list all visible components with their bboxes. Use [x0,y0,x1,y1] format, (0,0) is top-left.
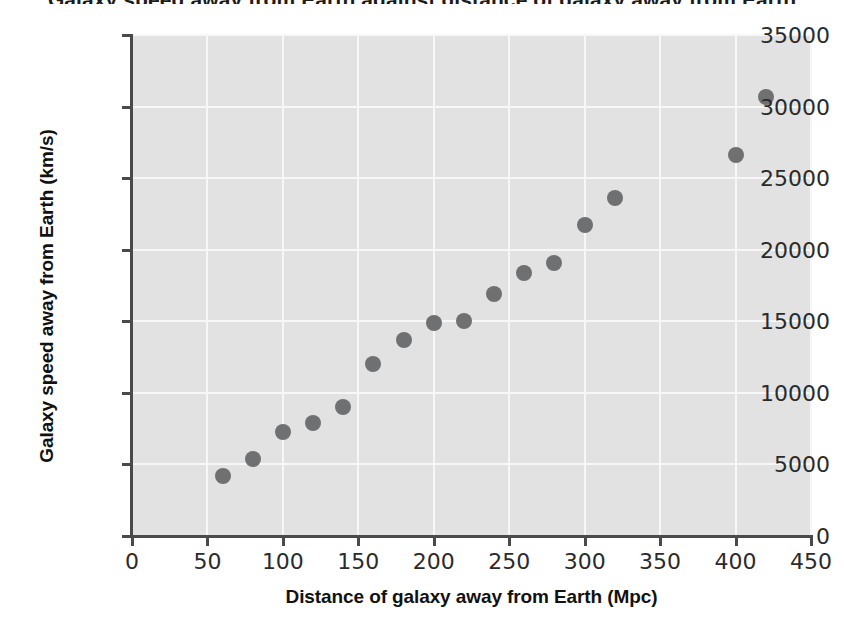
y-axis-tick [122,34,131,37]
data-point [335,399,351,415]
x-axis-tick [357,536,360,546]
x-axis-tick-label: 200 [394,549,474,574]
data-point [275,424,291,440]
x-axis-tick-label: 0 [92,549,172,574]
x-axis-tick [584,536,587,546]
y-axis-line [130,34,133,538]
y-axis-tick-label: 0 [726,524,844,549]
y-axis-tick [122,320,131,323]
x-axis-tick [659,536,662,546]
x-axis-tick-label: 400 [696,549,776,574]
y-axis-tick-label: 15000 [726,309,844,334]
x-axis-tick [206,536,209,546]
y-axis-tick-label: 5000 [726,452,844,477]
y-axis-tick [122,106,131,109]
data-point [577,217,593,233]
y-axis-tick-label: 35000 [726,23,844,48]
data-point [426,315,442,331]
gridline-vertical [433,35,435,536]
y-axis-tick-label: 10000 [726,380,844,405]
data-point [607,190,623,206]
x-axis-line [130,535,813,538]
data-point [456,313,472,329]
gridline-vertical [508,35,510,536]
data-point [546,255,562,271]
data-point [245,451,261,467]
gridline-horizontal [132,106,811,108]
gridline-vertical [206,35,208,536]
y-axis-tick [122,392,131,395]
gridline-horizontal [132,463,811,465]
gridline-vertical [584,35,586,536]
y-axis-tick [122,177,131,180]
gridline-vertical [282,35,284,536]
gridline-horizontal [132,177,811,179]
data-point [365,356,381,372]
x-axis-title: Distance of galaxy away from Earth (Mpc) [132,586,811,608]
x-axis-tick [282,536,285,546]
y-axis-tick [122,535,131,538]
plot-area [132,35,811,536]
gridline-horizontal [132,249,811,251]
y-axis-tick [122,463,131,466]
gridline-horizontal [132,392,811,394]
data-point [305,415,321,431]
data-point [215,468,231,484]
x-axis-tick-label: 150 [318,549,398,574]
x-axis-tick-label: 300 [545,549,625,574]
chart-title: Galaxy speed away from Earth against dis… [0,0,844,4]
x-axis-tick-label: 100 [243,549,323,574]
y-axis-tick-label: 20000 [726,237,844,262]
data-point [728,147,744,163]
x-axis-tick [810,536,813,546]
data-point [396,332,412,348]
gridline-horizontal [132,34,811,36]
y-axis-tick-label: 25000 [726,166,844,191]
y-axis-tick [122,249,131,252]
gridline-vertical [357,35,359,536]
x-axis-tick [131,536,134,546]
y-axis-tick-label: 30000 [726,94,844,119]
x-axis-tick-label: 50 [167,549,247,574]
y-axis-title: Galaxy speed away from Earth (km/s) [36,46,58,546]
x-axis-tick-label: 350 [620,549,700,574]
x-axis-tick [735,536,738,546]
scatter-chart-figure: Galaxy speed away from Earth against dis… [0,0,844,625]
data-point [516,265,532,281]
x-axis-tick [508,536,511,546]
data-point [486,286,502,302]
gridline-vertical [659,35,661,536]
x-axis-tick [433,536,436,546]
x-axis-tick-label: 250 [469,549,549,574]
x-axis-tick-label: 450 [771,549,844,574]
